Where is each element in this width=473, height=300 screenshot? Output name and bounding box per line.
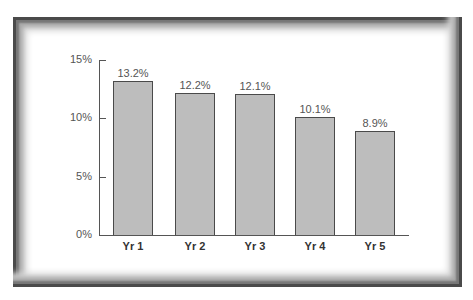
bar-value-label: 10.1% xyxy=(285,103,345,115)
y-tick-label: 10% xyxy=(52,111,92,123)
x-tick-label: Yr 1 xyxy=(103,240,163,252)
x-tick-label: Yr 5 xyxy=(345,240,405,252)
bar-value-label: 12.2% xyxy=(165,79,225,91)
bar-yr-1 xyxy=(113,81,153,235)
y-tick xyxy=(99,118,106,119)
bar-chart: 15% 10% 5% 0% 13.2% Yr 1 12.2% Yr 2 12.1… xyxy=(0,0,473,300)
bar-value-label: 8.9% xyxy=(345,117,405,129)
bar-yr-2 xyxy=(175,93,215,235)
y-tick xyxy=(99,177,106,178)
bar-yr-4 xyxy=(295,117,335,235)
x-tick-label: Yr 2 xyxy=(165,240,225,252)
y-axis xyxy=(99,60,100,236)
x-tick-label: Yr 4 xyxy=(285,240,345,252)
y-tick-label: 5% xyxy=(52,170,92,182)
bar-yr-3 xyxy=(235,94,275,235)
bar-value-label: 13.2% xyxy=(103,67,163,79)
y-tick xyxy=(99,60,106,61)
bar-value-label: 12.1% xyxy=(225,80,285,92)
x-tick-label: Yr 3 xyxy=(225,240,285,252)
x-axis xyxy=(99,235,409,236)
bar-yr-5 xyxy=(355,131,395,235)
y-tick-label: 0% xyxy=(52,228,92,240)
y-tick-label: 15% xyxy=(52,53,92,65)
